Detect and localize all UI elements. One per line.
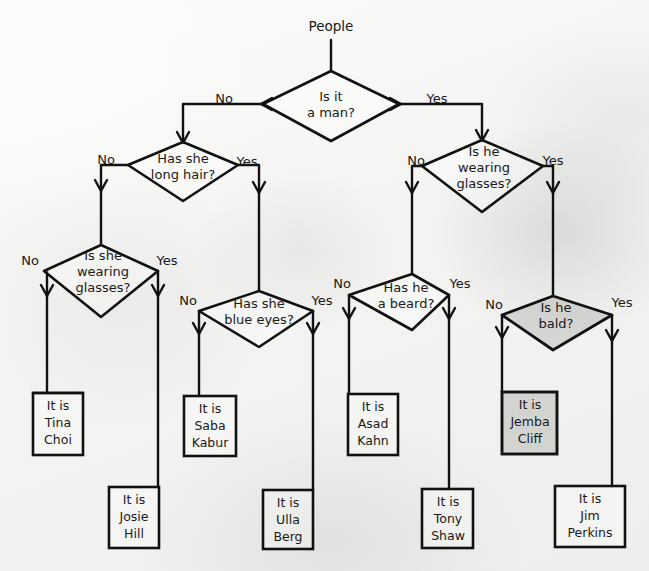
decision-line2: wearing xyxy=(77,264,129,279)
decision-line1: Has she xyxy=(233,296,285,311)
result-line2: Jim xyxy=(579,508,599,523)
edge-label-bald-no: No xyxy=(485,297,503,312)
decision-has-he-a-beard[interactable]: Has he a beard? xyxy=(349,274,449,330)
decision-line1: Has she xyxy=(157,151,209,166)
result-line3: Berg xyxy=(273,529,302,544)
decision-line1: Is she xyxy=(84,248,122,263)
result-line2: Asad xyxy=(358,416,389,431)
decision-line1: Has he xyxy=(384,280,429,295)
decision-line2: wearing xyxy=(458,160,510,175)
connector-man-no xyxy=(183,104,263,142)
decision-is-he-bald[interactable]: Is he bald? xyxy=(502,296,612,350)
decision-has-she-blue-eyes[interactable]: Has she blue eyes? xyxy=(199,291,313,347)
decision-line2: bald? xyxy=(539,316,574,331)
edge-label-sheglasses-no: No xyxy=(21,253,39,268)
result-line1: It is xyxy=(519,397,542,412)
edge-label-man-no: No xyxy=(215,91,233,106)
result-line3: Choi xyxy=(44,432,72,447)
result-line3: Kahn xyxy=(357,433,388,448)
result-tina-choi[interactable]: It is Tina Choi xyxy=(33,393,83,455)
connector-longhair-yes xyxy=(238,165,259,291)
result-line2: Saba xyxy=(194,418,225,433)
result-line1: It is xyxy=(123,492,146,507)
result-line1: It is xyxy=(437,494,460,509)
decision-tree-diagram: People Is it a man? No Yes Has she long … xyxy=(0,0,649,571)
decision-is-it-a-man[interactable]: Is it a man? xyxy=(263,71,399,141)
root-label: People xyxy=(309,18,354,34)
result-line2: Jemba xyxy=(509,414,549,429)
edge-label-longhair-yes: Yes xyxy=(236,154,258,169)
edge-label-bald-yes: Yes xyxy=(611,295,633,310)
connector-longhair-no xyxy=(101,165,128,245)
decision-line1: Is he xyxy=(541,300,572,315)
edge-label-heglasses-yes: Yes xyxy=(542,153,564,168)
result-line3: Shaw xyxy=(431,528,465,543)
decision-line3: glasses? xyxy=(75,280,130,295)
decision-line2: blue eyes? xyxy=(224,312,294,327)
decision-line1: Is he xyxy=(469,144,500,159)
decision-is-she-wearing-glasses[interactable]: Is she wearing glasses? xyxy=(44,245,158,317)
edge-label-longhair-no: No xyxy=(97,152,115,167)
result-ulla-berg[interactable]: It is Ulla Berg xyxy=(263,490,313,549)
result-line3: Cliff xyxy=(518,431,543,446)
decision-line2: a man? xyxy=(307,105,355,120)
result-saba-kabur[interactable]: It is Saba Kabur xyxy=(184,396,236,456)
result-asad-kahn[interactable]: It is Asad Kahn xyxy=(348,394,398,455)
root-node-people[interactable]: People xyxy=(309,18,354,34)
edge-label-beard-yes: Yes xyxy=(449,276,471,291)
result-line1: It is xyxy=(199,401,222,416)
decision-line3: glasses? xyxy=(456,176,511,191)
edge-label-beard-no: No xyxy=(333,276,351,291)
edge-label-blueeyes-yes: Yes xyxy=(311,293,333,308)
connector-man-yes xyxy=(399,104,482,140)
result-line2: Josie xyxy=(118,509,148,524)
result-line2: Tony xyxy=(433,511,463,526)
result-jim-perkins[interactable]: It is Jim Perkins xyxy=(555,486,625,547)
result-josie-hill[interactable]: It is Josie Hill xyxy=(109,487,159,548)
result-line1: It is xyxy=(362,399,385,414)
result-line1: It is xyxy=(47,398,70,413)
decision-line2: long hair? xyxy=(151,167,215,182)
result-line3: Kabur xyxy=(192,435,229,450)
result-line1: It is xyxy=(277,495,300,510)
edge-label-man-yes: Yes xyxy=(426,91,448,106)
edge-label-blueeyes-no: No xyxy=(179,293,197,308)
decision-is-he-wearing-glasses[interactable]: Is he wearing glasses? xyxy=(422,140,543,212)
result-line2: Tina xyxy=(44,415,71,430)
decision-has-she-long-hair[interactable]: Has she long hair? xyxy=(128,142,238,201)
result-line3: Perkins xyxy=(567,525,612,540)
result-jemba-cliff[interactable]: It is Jemba Cliff xyxy=(502,392,557,454)
result-tony-shaw[interactable]: It is Tony Shaw xyxy=(422,489,473,548)
result-line3: Hill xyxy=(124,526,144,541)
decision-line2: a beard? xyxy=(378,296,435,311)
flowchart-page: People Is it a man? No Yes Has she long … xyxy=(0,0,649,571)
edge-label-heglasses-no: No xyxy=(407,153,425,168)
result-line1: It is xyxy=(579,491,602,506)
edge-label-sheglasses-yes: Yes xyxy=(156,253,178,268)
result-line2: Ulla xyxy=(276,512,300,527)
decision-line1: Is it xyxy=(319,89,342,104)
